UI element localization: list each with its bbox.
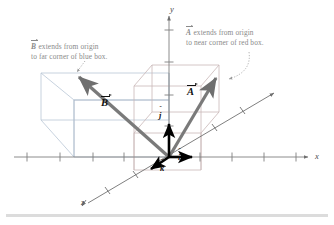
vector-B	[79, 77, 169, 157]
k-hat-accent: ˆ	[161, 159, 163, 163]
unit-vector-k-label: ˆk	[160, 163, 164, 173]
caption-a-vector-symbol: A	[186, 28, 192, 37]
x-axis-label: x	[315, 151, 319, 161]
unit-vector-i-label: ˆi	[178, 152, 180, 162]
caption-a-line1-rest: extends from origin	[192, 28, 254, 37]
caption-b-line1-rest: extends from origin	[37, 42, 99, 51]
caption-vector-a: A extends from origin to near corner of …	[186, 28, 264, 47]
b-leader-icon	[77, 61, 85, 72]
caption-vector-b-line2: to far corner of blue box.	[31, 52, 107, 62]
vector-a-overarrow	[187, 85, 196, 89]
blue-box-accent-edges	[74, 100, 169, 157]
vector-b-label: B	[101, 97, 108, 108]
vector-a-label: A	[187, 86, 194, 97]
caption-vector-a-line1: A extends from origin	[186, 28, 264, 38]
j-hat-accent: ˆ	[159, 106, 161, 110]
caption-vector-a-line2: to near corner of red box.	[186, 38, 264, 48]
y-axis-label: y	[170, 4, 174, 14]
caption-vector-b: B extends from origin to far corner of b…	[31, 42, 107, 61]
caption-vector-b-line1: B extends from origin	[31, 42, 107, 52]
bottom-divider	[6, 214, 328, 217]
z-axis-label: z	[81, 197, 84, 207]
vector-diagram-figure: B extends from origin to far corner of b…	[0, 0, 334, 225]
vector-b-overarrow	[101, 96, 110, 100]
diagram-canvas	[0, 0, 334, 225]
caption-b-vector-symbol: B	[31, 42, 37, 51]
red-box	[134, 65, 219, 170]
a-leader-icon	[229, 52, 249, 79]
i-hat-accent: ˆ	[178, 148, 180, 152]
unit-vector-j-label: ˆj	[159, 110, 161, 120]
